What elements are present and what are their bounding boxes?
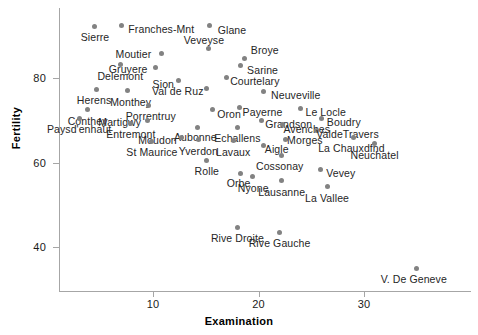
- data-point-label: Lausanne: [258, 186, 305, 198]
- data-point-label: Monthey: [110, 96, 151, 108]
- data-point-label: Echallens: [214, 132, 260, 144]
- data-point-label: Sarine: [247, 64, 278, 76]
- data-point-label: Moutier: [116, 48, 152, 60]
- data-point-label: Rolle: [195, 165, 219, 177]
- data-point-label: ValdeTravers: [316, 128, 378, 140]
- data-point-label: Cossonay: [256, 160, 304, 172]
- data-point[interactable]: [235, 125, 240, 130]
- data-point[interactable]: [77, 116, 82, 121]
- x-axis-title: Examination: [0, 315, 478, 327]
- data-point-label: Val de Ruz: [152, 85, 204, 97]
- x-tick-label: 10: [133, 298, 173, 310]
- data-point[interactable]: [277, 230, 282, 235]
- data-point-label: Payerne: [243, 106, 283, 118]
- data-point[interactable]: [119, 23, 124, 28]
- x-axis-line: [59, 291, 471, 292]
- data-point[interactable]: [94, 87, 99, 92]
- data-point[interactable]: [85, 107, 90, 112]
- x-tick-label: 30: [344, 298, 384, 310]
- data-point[interactable]: [238, 63, 243, 68]
- data-point[interactable]: [204, 86, 209, 91]
- data-point[interactable]: [210, 107, 215, 112]
- data-point[interactable]: [235, 225, 240, 230]
- data-point[interactable]: [207, 23, 212, 28]
- data-point[interactable]: [259, 118, 264, 123]
- data-point[interactable]: [325, 184, 330, 189]
- data-point-label: Lavaux: [216, 146, 250, 158]
- data-point-label: Sierre: [81, 31, 110, 43]
- data-point[interactable]: [298, 106, 303, 111]
- data-point-label: Veveyse: [184, 34, 224, 46]
- data-point[interactable]: [318, 167, 323, 172]
- data-point-label: Oron: [217, 108, 241, 120]
- x-tick-mark: [153, 291, 154, 297]
- data-point-label: Herens: [77, 94, 111, 106]
- data-point[interactable]: [153, 65, 158, 70]
- y-tick-mark: [53, 247, 59, 248]
- data-point[interactable]: [92, 24, 97, 29]
- y-tick-label: 40: [6, 241, 46, 253]
- data-point-label: V. De Geneve: [381, 273, 447, 285]
- data-point[interactable]: [204, 158, 209, 163]
- data-point-label: Rive Gauche: [249, 237, 311, 249]
- data-point[interactable]: [238, 171, 243, 176]
- data-point[interactable]: [145, 118, 150, 123]
- data-point-label: Boudry: [327, 116, 361, 128]
- data-point-label: Vevey: [326, 167, 355, 179]
- data-point-label: Aigle: [265, 143, 289, 155]
- y-tick-mark: [53, 78, 59, 79]
- data-point-label: St Maurice: [126, 146, 177, 158]
- data-point[interactable]: [195, 125, 200, 130]
- data-point[interactable]: [176, 78, 181, 83]
- data-point-label: Neuchatel: [350, 149, 398, 161]
- data-point[interactable]: [125, 88, 130, 93]
- y-axis-title: Fertility: [10, 68, 22, 188]
- data-point[interactable]: [279, 153, 284, 158]
- data-point-label: Neuveville: [271, 89, 320, 101]
- data-point[interactable]: [242, 56, 247, 61]
- y-axis-line: [59, 8, 60, 291]
- data-point[interactable]: [250, 174, 255, 179]
- data-point-label: Moudon: [138, 134, 177, 146]
- data-point[interactable]: [414, 266, 419, 271]
- data-point-label: La Vallee: [305, 192, 349, 204]
- data-point[interactable]: [224, 75, 229, 80]
- data-point-label: Broye: [251, 44, 279, 56]
- data-point-label: Gruyere: [109, 63, 148, 75]
- data-point-label: Martigwy: [98, 116, 141, 128]
- data-point-label: Yverdon: [179, 145, 218, 157]
- y-tick-mark: [53, 163, 59, 164]
- data-point[interactable]: [279, 178, 284, 183]
- data-point[interactable]: [206, 46, 211, 51]
- scatter-plot: 406080102030 SierreFranches-MntGlaneVeve…: [0, 0, 478, 335]
- data-point[interactable]: [319, 116, 324, 121]
- data-point[interactable]: [261, 89, 266, 94]
- data-point[interactable]: [159, 51, 164, 56]
- data-point-label: Courtelary: [230, 75, 279, 87]
- x-tick-mark: [364, 291, 365, 297]
- x-tick-mark: [259, 291, 260, 297]
- x-tick-label: 20: [239, 298, 279, 310]
